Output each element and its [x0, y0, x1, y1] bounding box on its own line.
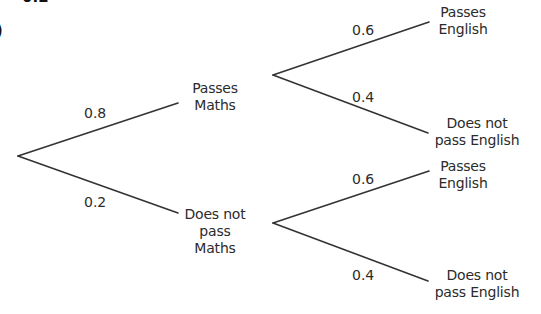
- prob-pm-passes-english: 0.6: [352, 22, 374, 38]
- node-label-line: Maths: [184, 97, 246, 114]
- probability-tree-diagram: 0.2 ) 0.8 0.2 Passes Maths Does not pass…: [0, 0, 541, 314]
- node-not-pass-maths: Does not pass Maths: [177, 206, 253, 257]
- prob-npm-passes-english: 0.6: [352, 171, 374, 187]
- node-label-line: Maths: [177, 240, 253, 257]
- node-label-line: Passes: [184, 80, 246, 97]
- node-label-line: pass: [177, 223, 253, 240]
- node-pm-passes-english: Passes English: [432, 4, 494, 38]
- node-label-line: Does not: [427, 267, 527, 284]
- node-passes-maths: Passes Maths: [184, 80, 246, 114]
- node-pm-not-pass-english: Does not pass English: [427, 115, 527, 149]
- branch-npm-not-pass-english: [273, 223, 428, 281]
- branch-pm-passes-english: [273, 22, 429, 75]
- node-label-line: Passes: [432, 158, 494, 175]
- node-label-line: Passes: [432, 4, 494, 21]
- node-label-line: English: [432, 21, 494, 38]
- branch-npm-passes-english: [273, 171, 429, 223]
- node-label-line: Does not: [177, 206, 253, 223]
- branch-pm-not-pass-english: [273, 75, 428, 133]
- prob-passes-maths: 0.8: [84, 105, 106, 121]
- prob-pm-not-pass-english: 0.4: [352, 89, 374, 105]
- node-npm-passes-english: Passes English: [432, 158, 494, 192]
- node-label-line: English: [432, 175, 494, 192]
- prob-npm-not-pass-english: 0.4: [352, 267, 374, 283]
- node-label-line: pass English: [427, 284, 527, 301]
- node-npm-not-pass-english: Does not pass English: [427, 267, 527, 301]
- node-label-line: pass English: [427, 132, 527, 149]
- node-label-line: Does not: [427, 115, 527, 132]
- prob-not-pass-maths: 0.2: [84, 194, 106, 210]
